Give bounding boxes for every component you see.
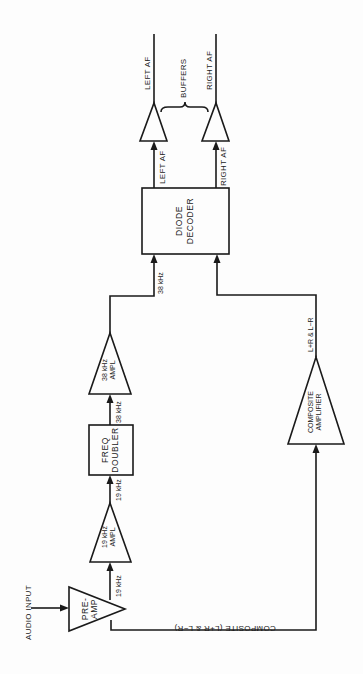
composite-out-label: L+R & L−R [307, 317, 314, 352]
amp-38khz-block: 38 kHz AMPL [89, 333, 131, 394]
composite-line [111, 451, 316, 630]
arrow-icon [107, 562, 114, 571]
stereo-decoder-diagram: AUDIO INPUT PRE- AMP 19 kHz COMPOSITE (L… [0, 0, 363, 674]
doubler-out-label: 38 kHz [115, 401, 122, 423]
buffers-label: BUFFERS [179, 59, 188, 98]
decoder-right-label: RIGHT AF [219, 147, 228, 186]
arrow-icon [313, 444, 320, 453]
arrow-icon [214, 254, 221, 263]
doubler-label-1: FREQ [100, 437, 110, 463]
arrow-icon [151, 141, 158, 150]
arrow-icon [151, 254, 158, 263]
composite-amplifier-block: COMPOSITE AMPLIFIER [288, 357, 344, 444]
arrow-icon [107, 394, 114, 403]
composite-line-label: COMPOSITE (L+R & L−R) [174, 624, 275, 633]
audio-input-label: AUDIO INPUT [24, 585, 33, 640]
decoder-label-1: DIODE [174, 206, 184, 236]
preamp-label-2: AMP [89, 599, 99, 619]
amp38-label-1: 38 kHz [101, 359, 108, 381]
amp19-label-1: 19 kHz [101, 526, 108, 548]
doubler-label-2: DOUBLER [110, 427, 120, 472]
arrow-icon [60, 605, 69, 612]
composite-out-line [217, 261, 316, 357]
decoder-left-label: LEFT AF [158, 150, 167, 184]
preamp-out-label: 19 kHz [115, 575, 122, 597]
decoder-label-2: DECODER [185, 198, 195, 245]
freq-doubler-block: FREQ DOUBLER [89, 425, 133, 475]
right-output-label: RIGHT AF [205, 51, 214, 90]
amp38-out-line [110, 261, 154, 333]
amp-19khz-block: 19 kHz AMPL [90, 503, 131, 562]
amp38-label-2: AMPL [109, 360, 116, 379]
amp19-out-label: 19 kHz [115, 479, 122, 501]
amp38-out-label: 38 kHz [157, 272, 164, 294]
arrow-icon [107, 475, 114, 484]
buffers-brace-icon [161, 102, 208, 112]
amp19-label-2: AMPL [109, 527, 116, 546]
left-output-label: LEFT AF [143, 56, 152, 90]
diode-decoder-block: DIODE DECODER [142, 188, 229, 254]
composite-amp-label-2: AMPLIFIER [315, 394, 322, 431]
composite-amp-label-1: COMPOSITE [307, 391, 314, 433]
